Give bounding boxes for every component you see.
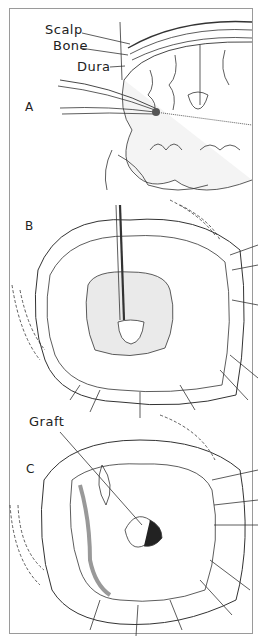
panel-c-drawing [10,415,258,636]
graft-label: Graft [29,414,64,429]
panel-c-letter: C [26,462,34,476]
panel-b-drawing [12,200,258,418]
panel-a-letter: A [25,100,33,114]
scalp-label: Scalp [45,22,83,37]
bone-label: Bone [53,38,88,53]
panel-b-letter: B [25,219,33,233]
surgical-illustration [0,0,262,642]
dura-label: Dura [77,59,111,74]
